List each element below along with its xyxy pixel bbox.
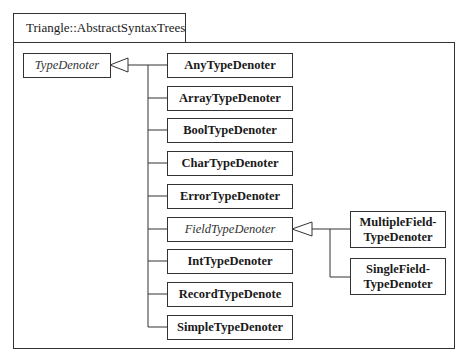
class-name-line2: TypeDenoter: [363, 277, 432, 292]
class-name: ErrorTypeDenoter: [180, 189, 280, 204]
class-name: TypeDenoter: [35, 58, 99, 73]
class-array-type-denoter[interactable]: ArrayTypeDenoter: [167, 86, 293, 111]
class-name: ArrayTypeDenoter: [179, 91, 281, 106]
class-bool-type-denoter[interactable]: BoolTypeDenoter: [167, 118, 293, 143]
class-name: SimpleTypeDenoter: [177, 320, 283, 335]
class-name: IntTypeDenoter: [187, 254, 272, 269]
generalization-arrow-icon: [110, 58, 128, 72]
class-char-type-denoter[interactable]: CharTypeDenoter: [167, 151, 293, 176]
class-field-type-denoter[interactable]: FieldTypeDenoter: [167, 217, 293, 242]
class-name: FieldTypeDenoter: [185, 222, 276, 237]
field-generalization-arrow-icon: [292, 222, 312, 236]
class-single-field-type-denoter[interactable]: SingleField- TypeDenoter: [350, 258, 446, 295]
class-name: CharTypeDenoter: [182, 156, 279, 171]
class-name: AnyTypeDenoter: [184, 58, 275, 73]
class-error-type-denoter[interactable]: ErrorTypeDenoter: [167, 184, 293, 209]
class-simple-type-denoter[interactable]: SimpleTypeDenoter: [167, 315, 293, 340]
class-name-line2: TypeDenoter: [363, 230, 432, 245]
class-any-type-denoter[interactable]: AnyTypeDenoter: [167, 53, 293, 78]
class-name-line1: MultipleField-: [359, 215, 436, 230]
class-type-denoter[interactable]: TypeDenoter: [23, 53, 111, 78]
class-name-line1: SingleField-: [366, 262, 430, 277]
class-int-type-denoter[interactable]: IntTypeDenoter: [167, 249, 293, 274]
class-record-type-denoter[interactable]: RecordTypeDenote: [167, 282, 293, 307]
class-name: RecordTypeDenote: [179, 287, 282, 302]
class-multiple-field-type-denoter[interactable]: MultipleField- TypeDenoter: [350, 211, 446, 248]
class-name: BoolTypeDenoter: [183, 123, 277, 138]
